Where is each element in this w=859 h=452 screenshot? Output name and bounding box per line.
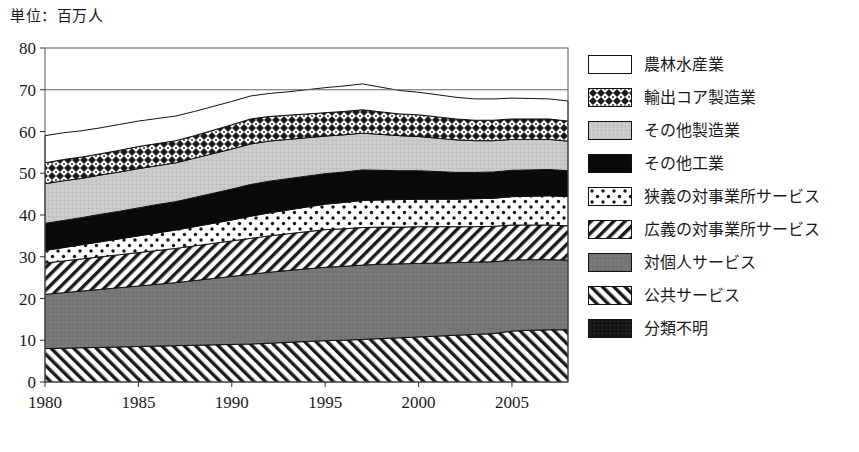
legend-label: 対個人サービス [644,255,756,271]
legend-item[interactable]: その他工業 [588,147,859,180]
legend-label: 農林水産業 [644,57,724,73]
legend-label: 輸出コア製造業 [644,90,756,106]
unit-label: 単位：百万人 [10,4,103,25]
x-axis: 198019851990199520002005 [28,382,529,412]
legend-item[interactable]: 農林水産業 [588,48,859,81]
legend-item[interactable]: 狭義の対事業所サービス [588,180,859,213]
legend-swatch-blank [588,55,632,74]
legend-item[interactable]: 公共サービス [588,279,859,312]
legend-item[interactable]: その他製造業 [588,114,859,147]
chart-svg: 01020304050607080 1980198519901995200020… [0,28,600,428]
legend-label: 公共サービス [644,288,740,304]
x-tick-label: 2000 [402,393,436,412]
y-tick-label: 70 [19,81,36,100]
legend-swatch-lightgray [588,121,632,140]
legend-swatch-checker [588,88,632,107]
y-tick-label: 80 [19,39,36,58]
plot-layers [45,84,568,382]
legend-swatch-midgray [588,253,632,272]
legend-swatch-diag-left [588,286,632,305]
y-tick-label: 20 [19,290,36,309]
legend-swatch-diag-right [588,220,632,239]
y-tick-label: 30 [19,248,36,267]
legend-item[interactable]: 対個人サービス [588,246,859,279]
legend-item[interactable]: 広義の対事業所サービス [588,213,859,246]
legend-label: 狭義の対事業所サービス [644,189,820,205]
y-axis: 01020304050607080 [19,39,45,392]
y-tick-label: 60 [19,123,36,142]
chart-legend: 農林水産業輸出コア製造業その他製造業その他工業狭義の対事業所サービス広義の対事業… [588,48,859,345]
legend-swatch-dots [588,187,632,206]
legend-label: 広義の対事業所サービス [644,222,820,238]
y-tick-label: 50 [19,164,36,183]
legend-item[interactable]: 分類不明 [588,312,859,345]
legend-swatch-darkblack [588,319,632,338]
x-tick-label: 1985 [121,393,155,412]
legend-item[interactable]: 輸出コア製造業 [588,81,859,114]
legend-label: その他工業 [644,156,724,172]
x-tick-label: 1980 [28,393,62,412]
stacked-area-chart: 01020304050607080 1980198519901995200020… [0,28,600,428]
legend-swatch-solidblack [588,154,632,173]
x-tick-label: 2005 [495,393,529,412]
legend-label: 分類不明 [644,321,708,337]
y-tick-label: 0 [28,373,37,392]
x-tick-label: 1990 [215,393,249,412]
legend-label: その他製造業 [644,123,740,139]
y-tick-label: 40 [19,206,36,225]
x-tick-label: 1995 [308,393,342,412]
y-tick-label: 10 [19,331,36,350]
